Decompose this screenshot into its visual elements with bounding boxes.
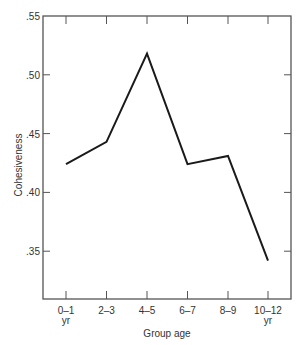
- plot-frame: [43, 16, 291, 299]
- y-tick-label: .45: [26, 129, 40, 140]
- y-tick-label: .55: [26, 11, 40, 22]
- y-tick-label: .35: [26, 246, 40, 257]
- x-axis-title: Group age: [143, 328, 191, 339]
- cohesiveness-line: [66, 54, 268, 261]
- x-axis: 0–1yr2–34–56–78–910–12yr: [58, 16, 283, 326]
- x-tick-label: 6–7: [179, 305, 196, 316]
- line-chart: .55.50.45.40.35 0–1yr2–34–56–78–910–12yr…: [0, 0, 304, 345]
- x-tick-sublabel: yr: [264, 315, 273, 326]
- y-tick-label: .50: [26, 70, 40, 81]
- x-tick-label: 2–3: [98, 305, 115, 316]
- y-axis: .55.50.45.40.35: [26, 11, 291, 257]
- y-axis-title: Cohesiveness: [13, 134, 24, 197]
- x-tick-sublabel: yr: [62, 315, 71, 326]
- plot-border: [43, 16, 291, 299]
- x-tick-label: 4–5: [139, 305, 156, 316]
- x-tick-label: 8–9: [220, 305, 237, 316]
- y-tick-label: .40: [26, 187, 40, 198]
